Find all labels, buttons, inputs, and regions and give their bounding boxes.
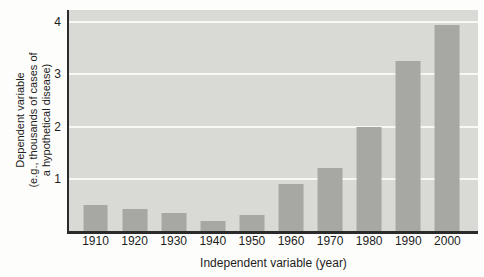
y-axis-tick-labels: 1234 bbox=[0, 10, 61, 231]
bar-1980 bbox=[357, 127, 382, 231]
x-tick-label-1950: 1950 bbox=[239, 235, 266, 248]
bar-1910 bbox=[83, 205, 108, 231]
bar-1920 bbox=[122, 209, 147, 231]
grid-line-4 bbox=[69, 21, 478, 23]
x-tick-label-1990: 1990 bbox=[395, 235, 422, 248]
x-tick-label-1940: 1940 bbox=[199, 235, 226, 248]
bar-2000 bbox=[435, 25, 460, 231]
x-tick-label-1960: 1960 bbox=[278, 235, 305, 248]
bar-1940 bbox=[200, 221, 225, 231]
y-tick-label-3: 3 bbox=[54, 68, 61, 80]
x-axis-title: Independent variable (year) bbox=[69, 256, 478, 270]
x-tick-label-1970: 1970 bbox=[317, 235, 344, 248]
x-tick-label-1910: 1910 bbox=[82, 235, 109, 248]
y-tick-label-2: 2 bbox=[54, 121, 61, 133]
bar-1960 bbox=[279, 184, 304, 231]
bar-1930 bbox=[161, 213, 186, 231]
bar-chart-figure: Dependent variable (e.g., thousands of c… bbox=[0, 0, 484, 277]
bar-1950 bbox=[239, 215, 264, 231]
y-tick-label-4: 4 bbox=[54, 16, 61, 28]
x-tick-label-2000: 2000 bbox=[434, 235, 461, 248]
plot-area bbox=[69, 10, 478, 231]
x-axis-tick-labels: 1910192019301940195019601970198019902000 bbox=[69, 235, 478, 249]
bar-1970 bbox=[318, 168, 343, 231]
x-tick-label-1920: 1920 bbox=[121, 235, 148, 248]
y-tick-label-1: 1 bbox=[54, 173, 61, 185]
y-axis-line bbox=[67, 10, 70, 233]
x-tick-label-1980: 1980 bbox=[356, 235, 383, 248]
bar-1990 bbox=[396, 61, 421, 231]
x-tick-label-1930: 1930 bbox=[160, 235, 187, 248]
